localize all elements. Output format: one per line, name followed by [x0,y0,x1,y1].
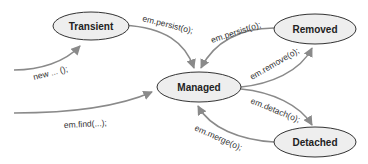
state-transient-label: Transient [69,21,114,32]
state-removed: Removed [274,14,356,44]
state-managed: Managed [157,72,241,102]
state-managed-label: Managed [177,82,220,93]
label-transient-persist: em.persist(o); [142,13,195,35]
state-transient: Transient [53,12,129,40]
edge-find-to-managed [14,92,152,113]
state-detached: Detached [274,127,356,157]
state-detached-label: Detached [292,137,337,148]
label-new: new ... (); [32,64,69,82]
edge-new-to-transient [14,46,80,70]
label-remove: em.remove(o); [248,45,301,81]
lifecycle-diagram: Transient Managed Removed Detached new .… [0,0,368,164]
label-removed-persist: em.persist(o); [210,19,263,45]
state-removed-label: Removed [292,24,337,35]
label-find: em.find(...); [64,118,107,130]
label-detach: em.detach(o); [249,96,301,125]
